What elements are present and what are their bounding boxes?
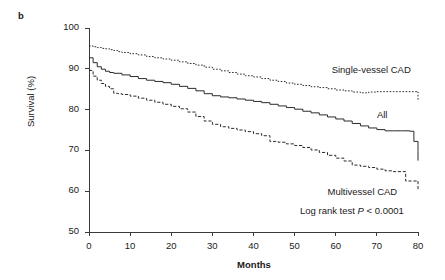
y-tick-label: 70: [53, 143, 79, 154]
y-tick-label: 60: [53, 184, 79, 195]
y-tick-label: 50: [53, 225, 79, 236]
y-axis-title: Survival (%): [25, 42, 36, 162]
x-tick-label: 30: [199, 240, 225, 251]
y-tick-label: 100: [53, 21, 79, 32]
x-tick-label: 20: [158, 240, 184, 251]
x-tick-label: 60: [323, 240, 349, 251]
plot-area: [0, 0, 445, 280]
y-tick-label: 80: [53, 103, 79, 114]
x-axis-title: Months: [89, 259, 419, 270]
curve-label-all: All: [377, 109, 388, 120]
y-tick-label: 90: [53, 62, 79, 73]
survival-chart-figure: b Survival (%) Months 506070809010001020…: [0, 0, 445, 280]
x-tick-label: 40: [241, 240, 267, 251]
panel-label: b: [18, 10, 24, 21]
x-tick-label: 0: [76, 240, 102, 251]
x-tick-label: 10: [117, 240, 143, 251]
p-symbol: P: [358, 205, 364, 216]
x-tick-label: 70: [364, 240, 390, 251]
curve-label-single-vessel-cad: Single-vessel CAD: [332, 64, 411, 75]
x-tick-label: 80: [405, 240, 431, 251]
log-rank-annotation: Log rank test P < 0.0001: [300, 205, 404, 216]
curve-label-multivessel-cad: Multivessel CAD: [328, 186, 398, 197]
axis-lines: [89, 28, 418, 232]
x-tick-label: 50: [282, 240, 308, 251]
